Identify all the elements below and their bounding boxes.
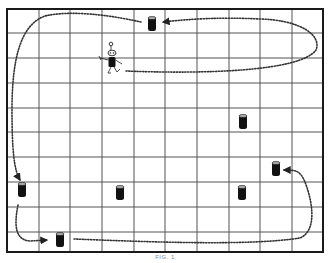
figure-caption: FIG. 1	[145, 254, 185, 260]
can-icon	[238, 185, 246, 200]
route-paths	[12, 13, 317, 242]
can-icon	[148, 16, 156, 31]
path-can4-to-can7	[16, 205, 47, 241]
grid-lines	[7, 9, 323, 252]
can-icon	[56, 232, 64, 247]
can-icon	[239, 114, 247, 129]
path-can1-to-can4	[12, 13, 141, 180]
can-icon	[18, 182, 26, 197]
can-icon	[272, 161, 280, 176]
grid-diagram	[0, 0, 328, 263]
can-icon	[116, 185, 124, 200]
diagram: FIG. 1	[0, 0, 328, 263]
